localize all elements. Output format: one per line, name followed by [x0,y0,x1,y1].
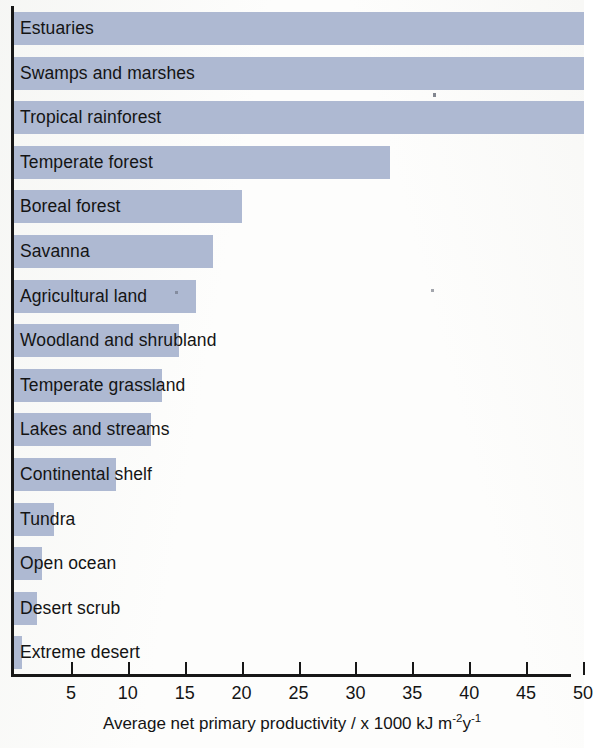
bar-label: Tropical rainforest [20,101,161,134]
x-axis-title-unit-y: y [462,714,471,733]
bar-label: Woodland and shrubland [20,324,216,357]
x-axis-tick [469,662,471,675]
bar-label: Boreal forest [20,190,121,223]
plot-area: EstuariesSwamps and marshesTropical rain… [0,0,584,676]
bar-row: Extreme desert [14,636,22,669]
x-axis-tick-label: 25 [279,683,319,704]
x-axis-tick-label: 40 [449,683,489,704]
bar-label: Swamps and marshes [20,57,195,90]
scan-speck [433,93,436,97]
x-axis-title-exponent-1: -2 [452,712,462,724]
x-axis-title: Average net primary productivity / x 100… [0,714,584,734]
bar-label: Desert scrub [20,592,120,625]
x-axis-tick [299,662,301,675]
x-axis-tick [583,662,585,675]
bar-label: Savanna [20,235,90,268]
bar-label: Temperate grassland [20,369,185,402]
x-axis-tick [412,662,414,675]
x-axis-title-exponent-2: -1 [471,712,481,724]
bar-label: Lakes and streams [20,413,170,446]
bar-label: Open ocean [20,547,116,580]
bar-row: Desert scrub [14,592,37,625]
bar-row: Continental shelf [14,458,116,491]
x-axis-tick [526,662,528,675]
scan-speck [431,289,434,292]
bar-row: Woodland and shrubland [14,324,179,357]
x-axis-tick [185,662,187,675]
x-axis-tick-label: 15 [165,683,205,704]
bar-label: Continental shelf [20,458,152,491]
bar-label: Extreme desert [20,636,140,669]
bar-row: Agricultural land [14,280,196,313]
bar-label: Estuaries [20,12,94,45]
bar-row: Tundra [14,503,54,536]
x-axis-tick-label: 35 [392,683,432,704]
x-axis-tick-label: 20 [222,683,262,704]
bar-row: Tropical rainforest [14,101,584,134]
x-axis-tick-label: 50 [563,683,597,704]
x-axis-tick-label: 10 [108,683,148,704]
bar-label: Agricultural land [20,280,147,313]
x-axis-tick-label: 30 [335,683,375,704]
bar-row: Boreal forest [14,190,242,223]
x-axis-tick [242,662,244,675]
x-axis-tick [355,662,357,675]
bar-row: Swamps and marshes [14,57,584,90]
x-axis-tick-label: 5 [51,683,91,704]
x-axis-tick-label: 45 [506,683,546,704]
bar-label: Tundra [20,503,75,536]
bar-row: Temperate grassland [14,369,162,402]
bar-row: Lakes and streams [14,413,151,446]
x-axis-line [11,674,571,677]
bar-row: Open ocean [14,547,42,580]
bar-label: Temperate forest [20,146,153,179]
bar-row: Savanna [14,235,213,268]
bar-row: Temperate forest [14,146,390,179]
bar-row: Estuaries [14,12,584,45]
x-axis-title-text: Average net primary productivity / x 100… [103,714,452,733]
bar [14,12,584,45]
